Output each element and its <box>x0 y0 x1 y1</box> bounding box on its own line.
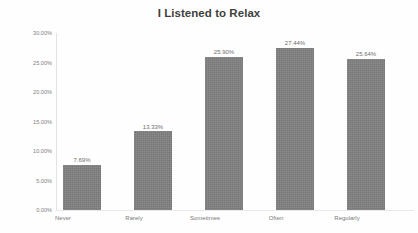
plot-area: 7.69% 13.33% 25.90% 27.44% 25.64% <box>56 33 414 210</box>
x-axis-category-label: Often <box>240 214 312 222</box>
y-axis-tick-label: 30.00% <box>4 30 52 36</box>
bar[interactable] <box>63 165 101 210</box>
y-axis: 30.00% 25.00% 20.00% 15.00% 10.00% 5.00%… <box>0 0 52 233</box>
y-axis-tick-label: 5.00% <box>4 178 52 184</box>
bar-chart: I Listened to Relax 30.00% 25.00% 20.00%… <box>0 0 418 233</box>
x-axis-category-label: Regularly <box>311 214 383 222</box>
bar-value-label: 27.44% <box>265 40 325 47</box>
bar[interactable] <box>347 59 385 210</box>
bar[interactable] <box>205 57 243 210</box>
x-axis-category-label: Sometimes <box>169 214 241 222</box>
chart-title: I Listened to Relax <box>0 7 418 19</box>
y-axis-tick-label: 0.00% <box>4 207 52 213</box>
y-axis-tick-label: 15.00% <box>4 119 52 125</box>
bar[interactable] <box>276 48 314 210</box>
x-axis-category-label: Never <box>27 214 99 222</box>
y-axis-tick-label: 20.00% <box>4 89 52 95</box>
y-axis-tick-label: 10.00% <box>4 148 52 154</box>
bar-value-label: 13.33% <box>123 124 183 131</box>
y-axis-tick-label: 25.00% <box>4 60 52 66</box>
bar-value-label: 7.69% <box>52 157 112 164</box>
bar-value-label: 25.64% <box>336 51 396 58</box>
bar-value-label: 25.90% <box>194 49 254 56</box>
x-axis-category-label: Rarely <box>98 214 170 222</box>
bar[interactable] <box>134 131 172 210</box>
